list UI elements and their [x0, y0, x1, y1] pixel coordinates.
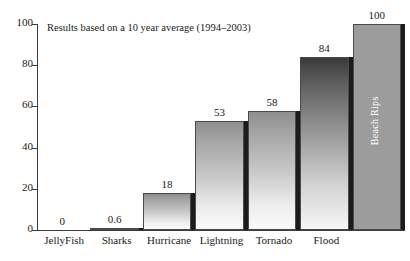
- bar-value-label: 0: [38, 216, 86, 227]
- x-axis-category-label: Hurricane: [143, 234, 195, 247]
- bar-inner-label: Beach Rips: [370, 103, 380, 145]
- bar-group[interactable]: Beach Rips100: [353, 24, 405, 230]
- bar-value-label: 84: [300, 43, 348, 54]
- bar-group[interactable]: 53: [195, 24, 247, 230]
- bar-group[interactable]: 0.6: [90, 24, 142, 230]
- y-axis-tick-label: 80: [22, 58, 33, 69]
- y-axis-tick-label: 100: [17, 17, 34, 28]
- bar-value-label: 53: [195, 107, 243, 118]
- bar-value-label: 0.6: [90, 214, 138, 225]
- bar-group[interactable]: 0: [38, 24, 90, 230]
- plot-area: Results based on a 10 year average (1994…: [38, 24, 405, 230]
- bar[interactable]: [90, 228, 138, 230]
- bar-group[interactable]: 58: [248, 24, 300, 230]
- bar-value-label: 100: [353, 10, 401, 21]
- bar-value-label: 18: [143, 179, 191, 190]
- bar[interactable]: [300, 57, 348, 230]
- y-axis-tick-label: 60: [22, 99, 33, 110]
- x-axis-category-label: Flood: [300, 234, 352, 247]
- y-axis-tick-label: 20: [22, 182, 33, 193]
- y-axis-tick-label: 40: [22, 141, 33, 152]
- x-axis-line: [37, 230, 405, 231]
- bar[interactable]: Beach Rips: [353, 24, 401, 230]
- x-axis-category-label: Lightning: [195, 234, 247, 247]
- bar-group[interactable]: 18: [143, 24, 195, 230]
- bar[interactable]: [248, 111, 296, 230]
- bar-chart: 020406080100 Results based on a 10 year …: [0, 0, 410, 261]
- bar-group[interactable]: 84: [300, 24, 352, 230]
- bar-value-label: 58: [248, 97, 296, 108]
- y-axis-tick-label: 0: [28, 223, 34, 234]
- bar[interactable]: [143, 193, 191, 230]
- bar[interactable]: [195, 121, 243, 230]
- x-axis-category-label: Tornado: [248, 234, 300, 247]
- x-axis-category-label: Sharks: [90, 234, 142, 247]
- bar-shadow: [401, 24, 405, 230]
- x-axis-category-label: JellyFish: [38, 234, 90, 247]
